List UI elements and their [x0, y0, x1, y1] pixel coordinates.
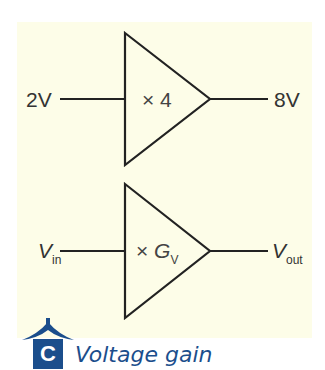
gain-symbol: G: [154, 239, 170, 262]
roof-icon: [22, 318, 74, 340]
amplifier-2-input-label: Vin: [38, 240, 61, 266]
multiply-sign: ×: [136, 239, 148, 262]
vout-subscript: out: [286, 253, 303, 267]
caption-badge: C: [33, 339, 63, 369]
amplifier-diagram: [0, 0, 325, 370]
caption-text: Voltage gain: [75, 342, 212, 367]
amplifier-1-gain-label: × 4: [142, 89, 172, 110]
amplifier-2-output-label: Vout: [272, 240, 303, 266]
amplifier-1-input-label: 2V: [26, 89, 52, 110]
vin-subscript: in: [52, 253, 61, 267]
vout-symbol: V: [272, 239, 286, 262]
amplifier-2-gain-label: × GV: [136, 240, 178, 266]
vin-symbol: V: [38, 239, 52, 262]
amplifier-1-output-label: 8V: [274, 89, 300, 110]
gain-subscript: V: [170, 253, 178, 267]
figure-caption: C Voltage gain: [33, 338, 212, 370]
